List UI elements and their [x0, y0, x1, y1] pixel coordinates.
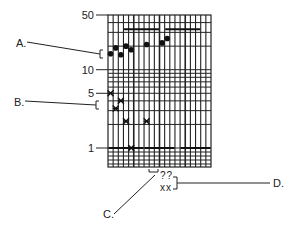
y-tick-label-1: 1	[70, 143, 94, 154]
y-tick-label-5: 5	[70, 88, 94, 99]
annotation-b-label: B.	[14, 97, 24, 108]
bracket-a	[100, 50, 103, 58]
data-point-asterisk	[108, 90, 114, 96]
annotation-leader-lines	[25, 42, 270, 214]
leader-b	[25, 101, 96, 105]
x-label-top: ??	[160, 171, 173, 181]
y-axis-ticks	[96, 15, 108, 148]
bracket-b	[96, 101, 99, 109]
annotation-d-label: D.	[273, 178, 284, 189]
x-label-bottom: xx	[160, 183, 172, 193]
y-tick-label-10: 10	[70, 65, 94, 76]
data-point-asterisk	[123, 118, 129, 124]
log-grid-chart	[0, 0, 290, 235]
leader-a	[27, 42, 100, 54]
bracket-c	[149, 169, 158, 172]
data-point-asterisk	[144, 118, 150, 124]
bracket-d	[173, 177, 177, 189]
data-point-dot	[123, 43, 129, 49]
data-point-dot	[118, 52, 124, 58]
data-point-asterisk	[118, 98, 124, 104]
data-point-dot	[113, 45, 119, 51]
annotation-c-label: C.	[103, 209, 114, 220]
data-point-dot	[144, 42, 150, 48]
data-point-dot	[128, 47, 134, 53]
data-point-dot	[108, 51, 114, 57]
data-point-dot	[159, 40, 165, 46]
grid	[108, 15, 211, 167]
data-point-asterisk	[128, 145, 134, 151]
data-point-dot	[164, 36, 170, 42]
y-tick-label-50: 50	[70, 10, 94, 21]
leader-c	[114, 175, 155, 214]
annotation-a-label: A.	[16, 38, 26, 49]
annotated-log-chart-diagram: A. B. C. D. 50 10 5 1 ?? xx	[0, 0, 290, 235]
